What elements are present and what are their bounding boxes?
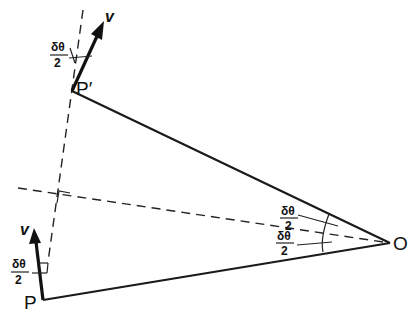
svg-text:δθ: δθ bbox=[277, 229, 291, 243]
svg-text:2: 2 bbox=[54, 56, 61, 70]
angle-label-top: δθ 2 bbox=[50, 40, 68, 70]
vector-label-v-bottom: v bbox=[20, 221, 30, 238]
point-label-o: O bbox=[393, 233, 408, 254]
svg-text:δθ: δθ bbox=[281, 204, 295, 218]
angle-arc bbox=[322, 214, 329, 252]
velocity-vector-p bbox=[36, 242, 43, 300]
angle-tick bbox=[47, 263, 48, 273]
point-label-p-prime: P′ bbox=[76, 78, 93, 99]
diagram-canvas: P′ P O v v δθ 2 δθ 2 δθ 2 δθ 2 bbox=[0, 0, 417, 328]
svg-text:2: 2 bbox=[15, 273, 22, 287]
angle-label-center-lower: δθ 2 bbox=[276, 229, 294, 258]
angle-label-bottom: δθ 2 bbox=[11, 257, 29, 287]
point-label-p: P bbox=[24, 292, 37, 313]
right-angle-mark bbox=[57, 191, 70, 203]
vector-label-v-top: v bbox=[105, 8, 115, 25]
angle-tick bbox=[70, 48, 75, 63]
radius-line-op bbox=[43, 243, 390, 300]
svg-text:δθ: δθ bbox=[12, 257, 26, 271]
arrowhead-icon bbox=[29, 228, 41, 244]
radius-line-op-prime bbox=[72, 91, 390, 243]
svg-text:2: 2 bbox=[281, 244, 288, 258]
svg-text:δθ: δθ bbox=[51, 40, 65, 54]
angle-tick bbox=[298, 215, 338, 226]
angle-tick bbox=[297, 242, 332, 245]
arrowhead-icon bbox=[91, 21, 104, 40]
